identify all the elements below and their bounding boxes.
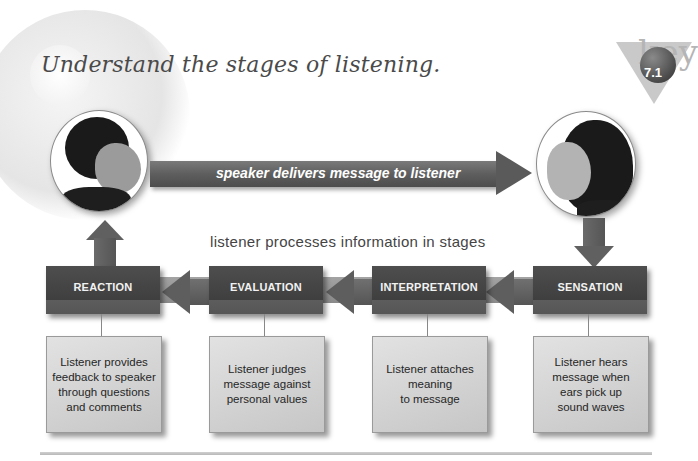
arrow-left-head xyxy=(326,270,354,314)
description-text: Listener attaches meaning to message xyxy=(382,362,478,407)
page-title: Understand the stages of listening. xyxy=(41,52,441,77)
stage-label: SENSATION xyxy=(533,281,647,293)
stage-label: INTERPRETATION xyxy=(372,281,486,293)
main-arrow-label: speaker delivers message to listener xyxy=(216,165,460,181)
listener-body xyxy=(577,200,633,217)
arrow-left-icon xyxy=(486,270,538,314)
description-text: Listener judges message against personal… xyxy=(220,362,315,407)
description-text: Listener hears message when ears pick up… xyxy=(548,355,633,415)
arrow-left-head xyxy=(486,270,514,314)
description-evaluation: Listener judges message against personal… xyxy=(209,336,325,433)
arrow-left-icon xyxy=(162,270,214,314)
stage-interpretation: INTERPRETATION xyxy=(372,266,486,314)
description-text: Listener provides feedback to speaker th… xyxy=(48,355,160,415)
speaker-body xyxy=(61,187,131,212)
key-badge: key 7.1 xyxy=(616,38,696,108)
process-label: listener processes information in stages xyxy=(210,233,485,250)
arrow-left-icon xyxy=(326,270,378,314)
arrow-up-icon xyxy=(86,220,126,270)
speaker-face xyxy=(95,143,141,193)
stage-evaluation: EVALUATION xyxy=(209,266,323,314)
connector-line xyxy=(101,314,102,336)
description-reaction: Listener provides feedback to speaker th… xyxy=(46,336,162,433)
connector-line xyxy=(264,314,265,336)
connector-line xyxy=(427,314,428,336)
listener-portrait xyxy=(536,111,636,217)
arrow-down-shaft xyxy=(583,218,605,248)
arrow-up-head xyxy=(86,220,124,240)
arrow-left-head xyxy=(162,270,190,314)
speaker-portrait xyxy=(50,110,148,212)
bottom-rule xyxy=(40,452,652,455)
speaker-to-listener-arrow: speaker delivers message to listener xyxy=(150,153,530,193)
description-sensation: Listener hears message when ears pick up… xyxy=(533,336,649,433)
arrow-right-icon xyxy=(496,151,532,195)
key-number: 7.1 xyxy=(644,65,662,80)
stage-label: REACTION xyxy=(46,281,160,293)
listener-face xyxy=(547,142,591,200)
description-interpretation: Listener attaches meaning to message xyxy=(372,336,488,433)
arrow-down-head xyxy=(574,246,614,268)
stage-reaction: REACTION xyxy=(46,266,160,314)
stage-label: EVALUATION xyxy=(209,281,323,293)
stage-sensation: SENSATION xyxy=(533,266,647,314)
connector-line xyxy=(588,314,589,336)
arrow-down-icon xyxy=(574,218,614,270)
